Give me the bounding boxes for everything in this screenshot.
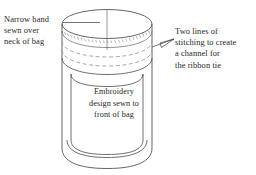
stitching-channel-label-line-1: Two lines of [175, 26, 236, 37]
embroidery-panel-label-line-2: design sewn to [72, 98, 156, 110]
stitching-channel-label-line-3: a channel for [175, 48, 236, 59]
stitching-channel-label-line-4: the ribbon tie [175, 60, 236, 71]
narrow-band-label-line-2: sewn over [4, 25, 49, 36]
stitching-channel-label-line-2: stitching to create [175, 37, 236, 48]
narrow-band-label-line-3: neck of bag [4, 36, 49, 47]
diagram-canvas: Narrow band sewn over neck of bag Two li… [0, 0, 256, 175]
embroidery-panel-label: Embroidery design sewn to front of bag [72, 86, 156, 121]
embroidery-panel-label-line-1: Embroidery [72, 86, 156, 98]
embroidery-panel-label-line-3: front of bag [72, 109, 156, 121]
band-bottom-edge [62, 58, 152, 75]
stitching-channel-label: Two lines of stitching to create a chann… [175, 26, 236, 71]
narrow-band-label-line-1: Narrow band [4, 14, 49, 25]
narrow-band-label: Narrow band sewn over neck of bag [4, 14, 49, 48]
